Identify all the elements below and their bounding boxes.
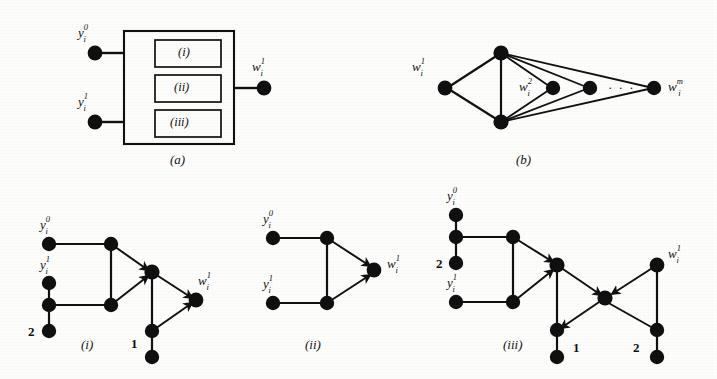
panel-iii-node-two-left [449,256,463,270]
panel-iii-node-w1 [650,258,665,273]
panel-i-node-one-upper [145,324,159,338]
panel-i-edge-apex-w1 [155,274,192,298]
panel-ii-caption: (ii) [305,337,321,353]
panel-i-node-mid [42,298,56,312]
panel-a-node-w1 [257,81,272,96]
panel-iii-edge-bottom-apex1 [513,270,553,302]
panel-b-label-w1: w1i [412,58,427,74]
panel-i-label-y0: y0i [40,216,52,232]
panel-a-inner-label-ii-text: (ii) [174,80,189,95]
panel-i-node-y0 [42,237,56,251]
panel-ii-graphics [266,231,382,310]
panel-iii-label-y0: y0i [447,187,459,203]
panel-ii-node-y1 [266,296,280,310]
panel-b-node-w2 [546,81,560,95]
panel-ii-label-y0: y0i [263,210,275,226]
panel-b-label-wm: wmi [668,78,685,94]
panel-ii-node-top [320,231,334,245]
panel-iii-node-upper-mid [449,230,463,244]
panel-b-edge-w1-bottom [447,88,501,122]
panel-iii-edge-apex1-center [557,265,601,295]
panel-a-node-y0 [88,46,103,61]
panel-a-inner-label-iii-text: (iii) [170,115,189,130]
panel-a-caption: (a) [170,152,185,168]
panel-iii-node-one-terminal [550,350,564,364]
panel-ii-node-bottom [320,296,334,310]
figure-canvas [0,0,717,379]
panel-iii-label-w1: w1i [668,245,683,261]
panel-i-node-w1 [189,293,204,308]
panel-b-node-w3 [583,81,597,95]
panel-iii-node-apex-left [549,257,564,272]
panel-iii-node-y0 [449,208,463,222]
panel-iii-node-two-upper [650,323,664,337]
panel-i-node-square-top [104,237,118,251]
panel-b-node-hub-top [493,45,508,60]
panel-b-caption: (b) [516,152,531,168]
panel-b-edge-w1-top [447,53,501,88]
panel-i-node-one-terminal [145,350,159,364]
panel-b-ellipsis: · · · [608,80,635,96]
panel-iii-node-y1 [449,295,463,309]
panel-iii-edge-center-lower [561,298,605,328]
panel-iii-label-y1: y1i [447,274,459,290]
panel-i-num-one: 1 [131,336,138,352]
panel-ii-edge-bottom-w1 [327,275,370,303]
panel-i-label-y1: y1i [40,256,52,272]
panel-i-num-two: 2 [28,324,35,340]
panel-i-label-w1: w1i [198,272,213,288]
panel-iii-node-two-terminal [650,350,664,364]
panel-iii-node-square-top [506,230,520,244]
panel-i-graphics [42,237,204,364]
panel-iii-edge-topright-center [612,265,657,294]
panel-a-label-w1: w1i [252,58,267,74]
panel-b-node-wm [647,81,661,95]
panel-a-inner-label-i-text: (i) [178,45,190,60]
panel-i-node-y1 [42,276,56,290]
panel-ii-node-y0 [266,231,280,245]
panel-iii-node-one-upper [550,323,564,337]
panel-iii-node-center [597,290,612,305]
panel-a-label-y0: y0i [78,24,90,40]
panel-iii-node-square-bottom [506,295,520,309]
panel-a-node-y1 [88,115,103,130]
panel-i-caption: (i) [81,337,93,353]
panel-ii-label-y1: y1i [263,275,275,291]
panel-iii-caption: (iii) [503,337,523,353]
panel-iii-num-one: 1 [573,340,580,356]
panel-iii-edge-center-bottomright [605,301,653,328]
panel-a-label-y1: y1i [78,93,90,109]
panel-i-node-square-bottom [104,298,118,312]
panel-iii-num-two-left: 2 [436,256,443,272]
panel-i-node-two [42,324,56,338]
panel-i-edge-bottom-w1 [152,303,192,331]
panel-ii-node-w1 [367,263,382,278]
panel-iii-num-two-right: 2 [633,340,640,356]
panel-ii-edge-top-w1 [327,238,370,266]
figure-root: y0i y1i w1i (i) (ii) (iii) (a) w1i w2i w… [0,0,717,379]
panel-b-label-w2: w2i [519,78,534,94]
panel-b-node-w1 [438,81,453,96]
panel-i-node-apex [144,264,159,279]
panel-ii-label-w1: w1i [387,255,402,271]
panel-b-node-hub-bottom [493,114,508,129]
